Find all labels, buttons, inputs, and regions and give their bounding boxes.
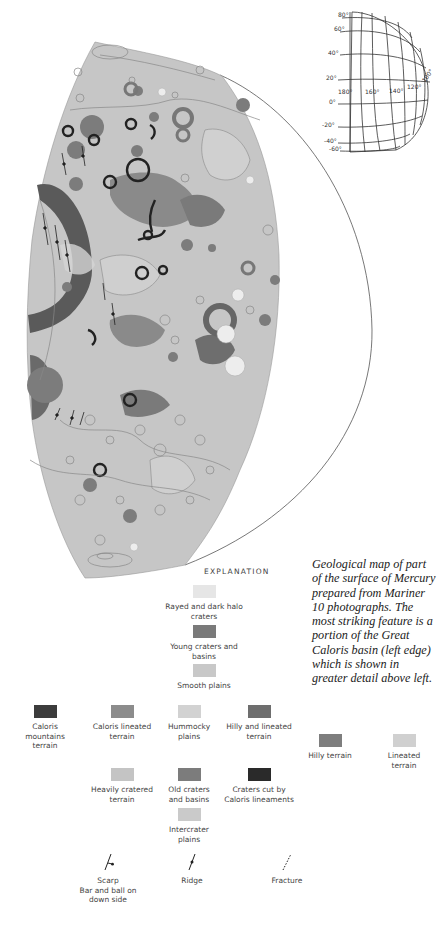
ridge-icon: [182, 851, 202, 873]
legend-item-hilly-lineated: Hilly and lineated terrain: [226, 705, 292, 741]
legend-item-rayed-craters: Rayed and dark halo craters: [158, 585, 250, 621]
fracture-icon: [277, 851, 297, 873]
globe-lon-label-180: 180°: [338, 88, 352, 95]
legend-item-intercrater-plains: Intercrater plains: [162, 808, 216, 844]
legend-label: Craters cut by Caloris lineaments: [224, 785, 294, 804]
legend-item-caloris-mountains: Caloris mountains terrain: [20, 705, 70, 751]
legend-swatch: [178, 808, 201, 821]
globe-lat-label-m60: -60°: [329, 145, 342, 152]
legend-swatch: [319, 734, 342, 747]
globe-lon-label-140: 140°: [389, 87, 403, 94]
legend-item-young-craters: Young craters and basins: [158, 625, 250, 661]
globe-lat-label-m40: -40°: [324, 137, 337, 144]
legend-label: Young craters and basins: [170, 642, 238, 661]
globe-lat-label-40: 40°: [328, 49, 339, 56]
globe-lat-label-20: 20°: [326, 74, 337, 81]
legend-label: Heavily cratered terrain: [91, 785, 153, 804]
legend-item-caloris-cut-craters: Craters cut by Caloris lineaments: [222, 768, 296, 804]
legend-label: Fracture: [262, 876, 312, 886]
legend-swatch: [393, 734, 416, 747]
legend-label: Intercrater plains: [169, 825, 209, 844]
legend-item-old-craters: Old craters and basins: [162, 768, 216, 804]
legend-swatch: [248, 768, 271, 781]
globe-lon-label-120: 120°: [407, 83, 421, 90]
legend-label: Rayed and dark halo craters: [165, 602, 243, 621]
legend-label: Smooth plains: [177, 681, 231, 690]
legend-label: Hummocky plains: [168, 722, 210, 741]
legend-label: Old craters and basins: [168, 785, 209, 804]
legend-item-lineated-terrain: Lineated terrain: [381, 734, 427, 770]
legend-swatch: [193, 625, 216, 638]
locator-globe: [338, 12, 430, 152]
legend-item-hilly-terrain: Hilly terrain: [302, 734, 358, 761]
legend-symbol-ridge: Ridge: [172, 851, 212, 886]
legend-label: Caloris mountains terrain: [25, 722, 65, 750]
globe-lat-label-80: 80°: [338, 11, 349, 18]
globe-lat-label-0: 0°: [329, 98, 336, 105]
legend-swatch: [111, 768, 134, 781]
legend-symbol-fracture: Fracture: [262, 851, 312, 886]
legend-sublabel: Bar and ball on down side: [78, 886, 138, 905]
legend-swatch: [178, 705, 201, 718]
legend-swatch: [248, 705, 271, 718]
globe-lat-label-m20: -20°: [322, 121, 335, 128]
geologic-map-artwork: [0, 0, 439, 925]
legend-symbol-scarp: Scarp Bar and ball on down side: [78, 851, 138, 905]
legend-label: Caloris lineated terrain: [93, 722, 151, 741]
legend-label: Ridge: [172, 876, 212, 886]
legend-label: Hilly terrain: [308, 751, 352, 760]
legend-swatch: [178, 768, 201, 781]
map-caption: Geological map of part of the surface of…: [312, 557, 437, 686]
legend-label: Hilly and lineated terrain: [226, 722, 292, 741]
legend-swatch: [111, 705, 134, 718]
legend-swatch: [193, 585, 216, 598]
legend-item-hummocky-plains: Hummocky plains: [162, 705, 216, 741]
legend-swatch: [34, 705, 57, 718]
legend-label: Lineated terrain: [388, 751, 421, 770]
legend-swatch: [193, 664, 216, 677]
scarp-icon: [98, 851, 118, 873]
legend-item-heavily-cratered: Heavily cratered terrain: [82, 768, 162, 804]
globe-lon-label-160: 160°: [365, 88, 379, 95]
legend-item-caloris-lineated: Caloris lineated terrain: [82, 705, 162, 741]
legend-item-smooth-plains: Smooth plains: [158, 664, 250, 691]
globe-lat-label-60: 60°: [334, 25, 345, 32]
legend-label: Scarp: [78, 876, 138, 886]
legend-title: EXPLANATION: [204, 567, 270, 576]
